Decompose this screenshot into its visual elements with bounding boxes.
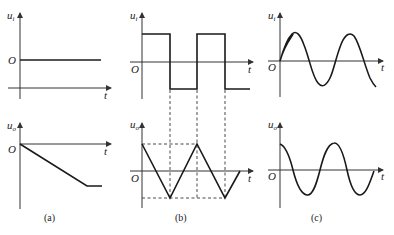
origin-label: O (131, 63, 139, 75)
panel-c-input-plot: ui O t (268, 9, 385, 97)
panel-c: ui O t uo O t (c) (268, 9, 385, 224)
origin-label: O (8, 143, 16, 155)
t-axis-label: t (381, 61, 385, 73)
y-axis-label: ui (130, 9, 138, 23)
caption-c: (c) (311, 212, 322, 224)
caption-b: (b) (175, 212, 187, 224)
origin-label: O (8, 54, 16, 66)
y-axis-label: ui (268, 9, 276, 23)
caption-a: (a) (44, 212, 55, 224)
t-axis-label: t (104, 145, 108, 157)
y-axis-label: ui (7, 9, 15, 23)
ramp-output-signal (20, 144, 102, 186)
panel-a-output-plot: uo O t (7, 119, 111, 209)
y-axis-label: uo (130, 118, 140, 132)
integrator-waveform-diagram: ui O t uo O t (a) ui O t (0, 0, 394, 235)
cosine-wave-output-signal (280, 143, 374, 195)
sine-wave-input-signal (280, 32, 376, 87)
origin-label: O (268, 170, 276, 182)
panel-c-output-plot: uo O t (268, 118, 385, 208)
t-axis-label: t (104, 89, 108, 101)
t-axis-label: t (248, 172, 252, 184)
panel-b-input-plot: ui O t (130, 9, 253, 99)
t-axis-label: t (248, 63, 252, 75)
panel-b-guides (142, 90, 225, 198)
origin-label: O (131, 172, 139, 184)
y-axis-label: uo (268, 118, 278, 132)
origin-label: O (268, 61, 276, 73)
panel-b: ui O t uo O t (b) (130, 9, 253, 224)
y-axis-label: uo (7, 119, 17, 133)
panel-b-output-plot: uo O t (130, 118, 253, 208)
panel-a-input-plot: ui O t (7, 9, 111, 101)
t-axis-label: t (381, 170, 385, 182)
panel-a: ui O t uo O t (a) (7, 9, 111, 224)
